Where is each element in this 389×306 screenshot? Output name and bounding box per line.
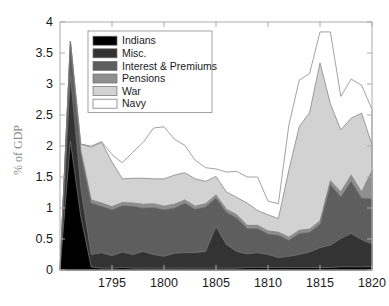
legend-swatch-navy (93, 99, 117, 108)
y-axis-ticklabels: 00.511.522.533.54 (36, 15, 53, 277)
y-tick-label: 4 (46, 15, 53, 29)
legend-label-interest-premiums: Interest & Premiums (122, 60, 217, 72)
y-tick-label: 0 (46, 263, 53, 277)
y-tick-label: 2.5 (36, 108, 53, 122)
x-tick-label: 1820 (358, 276, 386, 290)
y-tick-label: 1.5 (36, 170, 53, 184)
y-tick-label: 2 (46, 139, 53, 153)
legend-swatch-misc (93, 49, 117, 58)
x-tick-label: 1815 (306, 276, 334, 290)
x-tick-label: 1805 (202, 276, 230, 290)
legend-label-navy: Navy (122, 97, 147, 109)
legend-swatch-indians (93, 36, 117, 45)
legend-swatch-war (93, 87, 117, 96)
x-tick-label: 1810 (254, 276, 282, 290)
stacked-area-chart: 00.511.522.533.54 1795180018051810181518… (0, 0, 389, 306)
chart-legend: IndiansMisc.Interest & PremiumsPensionsW… (88, 31, 217, 113)
legend-swatch-pensions (93, 74, 117, 83)
x-axis-ticklabels: 179518001805181018151820 (98, 276, 386, 290)
y-axis-label: % of GDP (11, 125, 25, 175)
legend-label-war: War (122, 85, 141, 97)
x-tick-label: 1795 (98, 276, 126, 290)
y-tick-label: 3.5 (36, 46, 53, 60)
y-axis-title: % of GDP (11, 125, 25, 175)
chart-figure: 00.511.522.533.54 1795180018051810181518… (0, 0, 389, 306)
legend-label-pensions: Pensions (122, 72, 165, 84)
y-tick-label: 3 (46, 77, 53, 91)
y-tick-label: 1 (46, 201, 53, 215)
legend-label-misc: Misc. (122, 47, 147, 59)
x-tick-label: 1800 (150, 276, 178, 290)
legend-label-indians: Indians (122, 34, 156, 46)
legend-swatch-interest-premiums (93, 61, 117, 70)
y-tick-label: 0.5 (36, 232, 53, 246)
